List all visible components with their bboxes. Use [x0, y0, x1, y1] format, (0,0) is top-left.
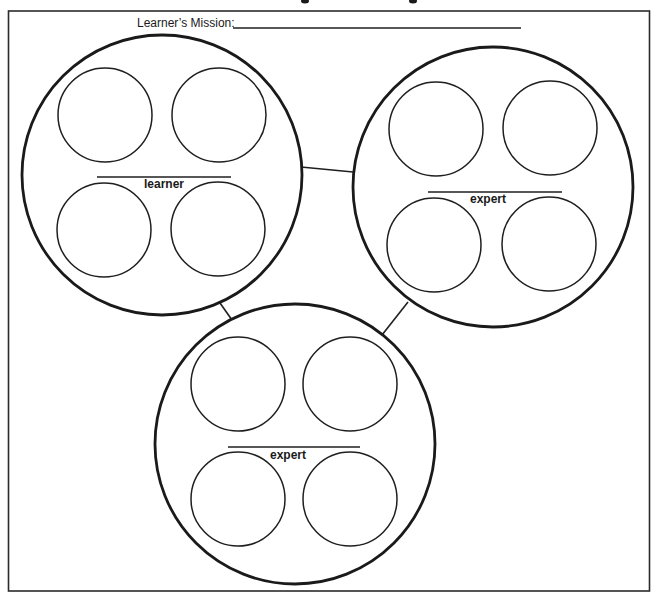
learner-role-label: learner: [144, 177, 184, 191]
expert-2-slot-bottom-left[interactable]: [191, 452, 285, 546]
learner-circle: [22, 35, 302, 315]
connector-expert-1-expert-2: [382, 302, 408, 335]
worksheet-canvas: Learner’s Mission: learner expert expert: [0, 0, 654, 594]
expert-1-role-label: expert: [470, 192, 506, 206]
expert-1-slot-bottom-right[interactable]: [502, 197, 596, 291]
learner-slot-bottom-right[interactable]: [171, 182, 265, 276]
expert-1-slot-top-right[interactable]: [503, 81, 597, 175]
learner-group: learner: [22, 35, 302, 315]
expert-1-slot-bottom-left[interactable]: [387, 198, 481, 292]
learner-slot-bottom-left[interactable]: [57, 183, 151, 277]
expert-2-role-label: expert: [270, 448, 306, 462]
expert-1-circle: [353, 47, 633, 327]
learner-slot-top-right[interactable]: [172, 68, 266, 162]
learner-slot-top-left[interactable]: [58, 68, 152, 162]
connector-learner-expert-1: [301, 167, 353, 172]
expert-2-circle: [155, 304, 435, 584]
expert-2-slot-bottom-right[interactable]: [303, 452, 397, 546]
expert-2-group: expert: [155, 304, 435, 584]
mission-label: Learner’s Mission:: [137, 16, 235, 30]
connector-learner-expert-2: [220, 303, 232, 320]
expert-2-slot-top-left[interactable]: [191, 337, 285, 431]
title-fragment: [301, 0, 417, 4]
expert-2-slot-top-right[interactable]: [303, 337, 397, 431]
expert-1-slot-top-left[interactable]: [389, 82, 483, 176]
expert-1-group: expert: [353, 47, 633, 327]
